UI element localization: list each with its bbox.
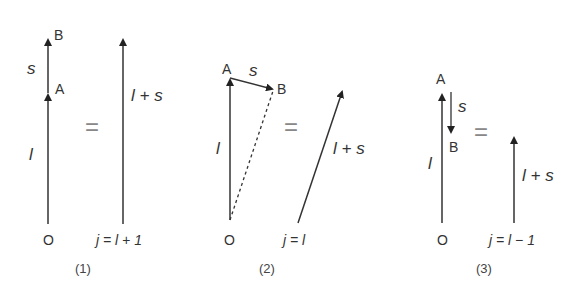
vector-l-label: l (29, 146, 33, 163)
panel-2 (230, 78, 342, 223)
vector-s-label: s (27, 60, 36, 77)
caption: (1) (75, 262, 91, 275)
result-label: l + s (131, 87, 163, 104)
caption: (2) (259, 262, 275, 275)
vector-l-label: l (216, 140, 220, 157)
point-b-label: B (449, 140, 458, 154)
vector-l-label: l (428, 155, 432, 172)
j-label: j = l + 1 (96, 233, 142, 247)
point-b-label: B (277, 82, 286, 96)
point-b-label: B (54, 28, 63, 42)
equals-sign: = (85, 115, 99, 139)
caption: (3) (476, 262, 492, 275)
equals-sign: = (474, 120, 488, 144)
dashed-sum (230, 91, 273, 220)
j-label: j = l (283, 233, 305, 247)
vector-s-label: s (458, 98, 467, 115)
origin-label: O (224, 233, 235, 247)
equals-sign: = (284, 115, 298, 139)
j-label: j = l − 1 (489, 233, 535, 247)
origin-label: O (437, 233, 448, 247)
point-a-label: A (222, 62, 231, 76)
vector-addition-diagram (0, 0, 574, 295)
point-a-label: A (55, 82, 64, 96)
vector-s-label: s (249, 62, 258, 79)
origin-label: O (43, 233, 54, 247)
result-label: l + s (522, 167, 554, 184)
panel-3 (442, 92, 514, 223)
point-a-label: A (436, 72, 445, 86)
result-label: l + s (333, 140, 365, 157)
